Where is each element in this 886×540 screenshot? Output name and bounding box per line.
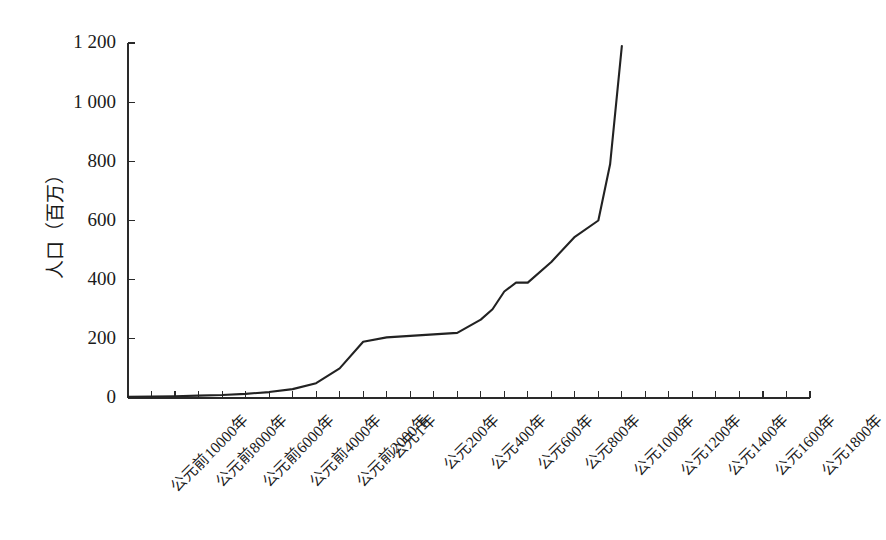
- y-tick-label: 200: [88, 327, 117, 348]
- axes-group: [128, 43, 810, 398]
- data-series-group: [128, 46, 622, 397]
- y-tick-label: 1 000: [73, 91, 116, 112]
- y-tick-label: 0: [107, 386, 117, 407]
- y-tick-labels-group: 02004006008001 0001 200: [73, 31, 116, 407]
- y-tick-label: 800: [88, 150, 117, 171]
- y-tick-label: 400: [88, 268, 117, 289]
- y-tick-label: 1 200: [73, 31, 116, 52]
- y-axis-title-group: 人口（百万）: [45, 165, 66, 279]
- y-axis-title: 人口（百万）: [45, 165, 66, 279]
- y-tick-label: 600: [88, 209, 117, 230]
- population-series-line: [128, 46, 622, 397]
- tick-marks-group: [128, 43, 810, 398]
